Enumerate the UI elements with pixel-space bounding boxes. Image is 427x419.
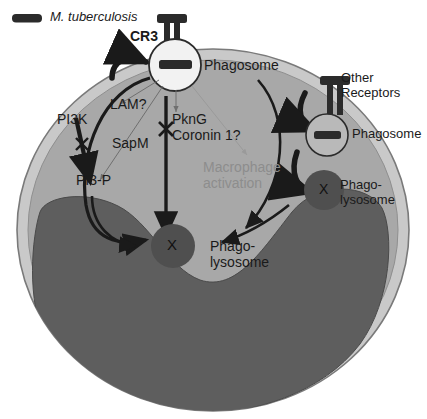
pkng-label: PknG <box>172 112 207 127</box>
macrophage-activation-label-line2: activation <box>203 176 262 191</box>
phagosome-right-label: Phagosome <box>352 127 421 141</box>
phagolysosome-center-x: X <box>167 237 177 253</box>
phagolysosome-center-label-line2: lysosome <box>210 255 269 270</box>
legend-label: M. tuberculosis <box>50 10 137 24</box>
lam-label: LAM? <box>110 97 147 112</box>
legend-bacterium-rod <box>12 14 42 23</box>
phagosome-top-label: Phagosome <box>204 58 279 73</box>
phagolysosome-right-x: X <box>319 182 328 197</box>
other-receptors-label-line2: Receptors <box>341 86 400 100</box>
other-receptors-label-line1: Other <box>341 71 374 85</box>
phagosome-top <box>149 39 201 91</box>
cr3-label: CR3 <box>130 29 158 44</box>
diagram-canvas: M. tuberculosis CR3 Phagosome Other Rece… <box>0 0 427 419</box>
phagolysosome-center-label-line1: Phago- <box>210 239 255 254</box>
phagolysosome-right-label-line2: lysosome <box>340 193 395 207</box>
pi3p-label: PI3-P <box>76 173 111 188</box>
macrophage-activation-label-line1: Macrophage <box>203 160 281 175</box>
coronin-label: Coronin 1? <box>172 128 241 143</box>
pi3k-label: PI3K <box>57 112 87 127</box>
phagolysosome-right-label-line1: Phago- <box>340 178 382 192</box>
sapm-label: SapM <box>112 136 149 151</box>
phagosome-right <box>306 114 348 156</box>
